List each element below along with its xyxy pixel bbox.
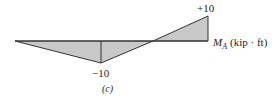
figure-caption: (c) xyxy=(102,83,114,95)
min-value-label: −10 xyxy=(92,67,110,79)
max-value-label: +10 xyxy=(197,2,215,14)
axis-subscript: A xyxy=(221,42,227,51)
positive-region xyxy=(153,16,208,41)
negative-region xyxy=(15,41,153,63)
influence-line-diagram: +10 −10 MA(kip · ft) (c) xyxy=(0,0,275,99)
axis-label: MA(kip · ft) xyxy=(212,36,268,51)
axis-units: (kip · ft) xyxy=(230,36,268,49)
